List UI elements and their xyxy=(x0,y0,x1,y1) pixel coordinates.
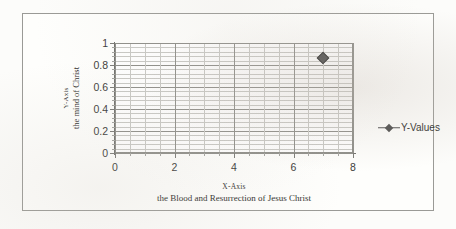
chart-legend: Y-Values xyxy=(378,122,440,133)
scanned-page: Y-Axis the mind of Christ 00.20.40.60.81… xyxy=(0,0,456,229)
y-axis-title-line2: the mind of Christ xyxy=(71,67,81,129)
y-axis-tick-label: 0 xyxy=(102,147,108,159)
x-axis-title-line1: X-Axis xyxy=(115,182,353,192)
legend-item-label: Y-Values xyxy=(401,122,440,133)
x-axis-tick-label: 6 xyxy=(291,161,297,173)
chart-frame: Y-Axis the mind of Christ 00.20.40.60.81… xyxy=(22,13,434,211)
y-axis-tick-label: 0.8 xyxy=(93,59,108,71)
y-axis-tick-label: 0.6 xyxy=(93,81,108,93)
x-axis-tick-label: 4 xyxy=(231,161,237,173)
x-axis-title: X-Axis the Blood and Resurrection of Jes… xyxy=(115,182,353,204)
y-axis-title-line1: Y-Axis xyxy=(61,67,71,129)
y-axis-tick-label: 0.4 xyxy=(93,103,108,115)
x-axis-tick-label: 2 xyxy=(172,161,178,173)
y-axis-tick-label: 1 xyxy=(102,37,108,49)
legend-diamond-icon xyxy=(378,123,400,132)
y-axis-tick-label: 0.2 xyxy=(93,125,108,137)
x-axis-tick-label: 8 xyxy=(350,161,356,173)
x-axis-title-line2: the Blood and Resurrection of Jesus Chri… xyxy=(115,192,353,204)
x-axis-tick-label: 0 xyxy=(112,161,118,173)
gridlines xyxy=(115,43,353,153)
plot-area: 00.20.40.60.81 02468 xyxy=(115,43,353,153)
y-axis-title: Y-Axis the mind of Christ xyxy=(62,43,80,153)
